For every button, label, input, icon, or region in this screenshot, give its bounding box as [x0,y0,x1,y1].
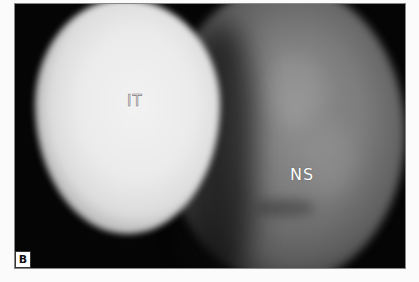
mucosa-highlight [265,54,325,124]
mucosa-fold-shadow [255,199,315,217]
endoscopic-image: IT NS B [14,3,406,269]
label-it: IT [127,92,143,110]
label-ns: NS [290,165,314,184]
panel-label: B [15,251,31,268]
